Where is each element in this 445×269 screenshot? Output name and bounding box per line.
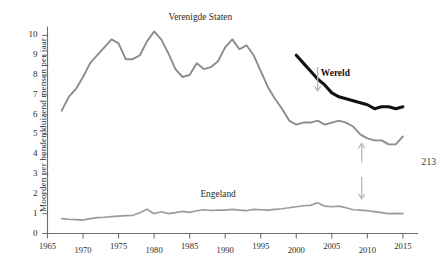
y-tick-label: 1 — [24, 208, 38, 218]
x-tick-label: 1990 — [208, 245, 242, 255]
x-tick-label: 1995 — [244, 241, 278, 251]
x-tick-label: 2000 — [279, 245, 313, 255]
y-tick-label: 5 — [24, 128, 38, 138]
y-tick-label: 0 — [24, 228, 38, 238]
series-label-wereld: Wereld — [321, 68, 350, 78]
x-tick-label: 1985 — [173, 241, 207, 251]
y-tick-marks — [43, 35, 48, 233]
engeland-down-arrow — [359, 177, 365, 199]
page-number: 213 — [422, 156, 436, 167]
y-tick-label: 7 — [24, 89, 38, 99]
y-tick-label: 10 — [24, 29, 38, 39]
y-tick-label: 3 — [24, 168, 38, 178]
series-label-verenigde-staten: Verenigde Staten — [168, 12, 232, 22]
y-tick-label: 2 — [24, 188, 38, 198]
annotation-arrows — [315, 67, 365, 199]
x-tick-marks — [48, 234, 403, 239]
chart-canvas — [0, 0, 445, 269]
x-tick-label: 1975 — [102, 241, 136, 251]
y-tick-label: 4 — [24, 148, 38, 158]
series-label-engeland: Engeland — [200, 189, 235, 199]
x-tick-label: 2005 — [315, 241, 349, 251]
us-up-arrow — [359, 143, 365, 162]
y-tick-label: 6 — [24, 109, 38, 119]
x-tick-label: 1965 — [31, 241, 65, 251]
y-tick-label: 9 — [24, 49, 38, 59]
homicide-rate-line-chart: Moorden per honderdduizend mensen per ja… — [0, 0, 445, 269]
x-tick-label: 2010 — [350, 245, 384, 255]
x-tick-label: 2015 — [386, 241, 420, 251]
y-tick-label: 8 — [24, 69, 38, 79]
x-tick-label: 1980 — [137, 245, 171, 255]
x-tick-label: 1970 — [66, 245, 100, 255]
